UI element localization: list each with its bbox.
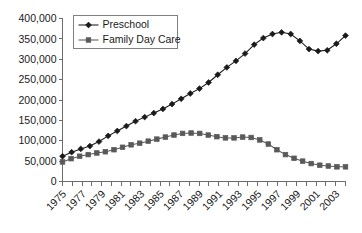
data-point-marker: [87, 143, 93, 149]
data-point-marker: [133, 118, 139, 124]
data-point-marker: [86, 152, 91, 157]
x-axis-tick-label: 1993: [219, 187, 244, 212]
data-point-marker: [326, 164, 331, 169]
y-axis-tick-label: 0: [51, 175, 57, 187]
data-point-marker: [169, 101, 175, 107]
data-point-marker: [275, 147, 280, 152]
data-point-marker: [69, 149, 75, 155]
line-chart: 050,000100,000150,000200,000250,000300,0…: [0, 0, 362, 233]
data-point-marker: [163, 135, 168, 140]
data-point-marker: [257, 138, 262, 143]
x-axis-tick-label: 1981: [102, 187, 127, 212]
y-axis-tick-label: 50,000: [24, 155, 56, 167]
data-point-marker: [155, 137, 160, 142]
x-axis-tick-label: 1997: [258, 187, 283, 212]
chart-canvas: 050,000100,000150,000200,000250,000300,0…: [0, 0, 362, 233]
series-line: [63, 32, 346, 156]
y-axis: 050,000100,000150,000200,000250,000300,0…: [19, 12, 63, 187]
x-axis: 1975197719791981198319851987198919911993…: [43, 182, 345, 213]
data-point-marker: [151, 110, 157, 116]
data-point-marker: [215, 134, 220, 139]
data-point-marker: [178, 96, 184, 102]
data-series-group: [60, 29, 349, 169]
data-point-marker: [95, 151, 100, 156]
data-point-marker: [137, 141, 142, 146]
y-axis-tick-label: 150,000: [19, 114, 57, 126]
data-point-marker: [309, 161, 314, 166]
data-point-marker: [335, 165, 340, 170]
data-point-marker: [197, 86, 203, 92]
data-point-marker: [270, 31, 276, 37]
data-point-marker: [232, 136, 237, 141]
data-point-marker: [114, 128, 120, 134]
legend-item-label: Preschool: [103, 18, 150, 30]
chart-legend: PreschoolFamily Day Care: [74, 16, 181, 49]
data-point-marker: [292, 156, 297, 161]
data-point-marker: [96, 139, 102, 145]
data-point-marker: [206, 133, 211, 138]
x-axis-tick-label: 1975: [43, 187, 68, 212]
x-axis-tick-label: 1991: [200, 187, 225, 212]
data-point-marker: [283, 152, 288, 157]
data-point-marker: [249, 135, 254, 140]
x-axis-tick-label: 1977: [63, 187, 88, 212]
data-point-marker: [146, 139, 151, 144]
data-point-marker: [60, 160, 65, 165]
y-axis-tick-label: 400,000: [19, 12, 57, 24]
data-point-marker: [60, 153, 66, 159]
x-axis-tick-label: 1985: [141, 187, 166, 212]
data-point-marker: [300, 159, 305, 164]
data-point-marker: [240, 135, 245, 140]
x-axis-tick-label: 1987: [161, 187, 186, 212]
data-point-marker: [197, 131, 202, 136]
y-axis-tick-label: 100,000: [19, 134, 57, 146]
data-point-marker: [120, 145, 125, 150]
data-point-marker: [189, 131, 194, 136]
y-axis-tick-label: 200,000: [19, 94, 57, 106]
x-axis-tick-label: 1989: [180, 187, 205, 212]
data-point-marker: [317, 163, 322, 168]
x-axis-tick-label: 1999: [278, 187, 303, 212]
data-point-marker: [142, 114, 148, 120]
data-point-marker: [103, 149, 108, 154]
data-point-marker: [69, 156, 74, 161]
data-point-marker: [105, 133, 111, 139]
y-axis-tick-label: 300,000: [19, 53, 57, 65]
data-point-marker: [315, 48, 321, 54]
data-point-marker: [223, 136, 228, 141]
data-point-marker: [172, 133, 177, 138]
data-point-marker: [129, 143, 134, 148]
data-point-marker: [180, 131, 185, 136]
x-axis-tick-label: 2001: [297, 187, 322, 212]
y-axis-tick-label: 250,000: [19, 73, 57, 85]
x-axis-tick-label: 1983: [121, 187, 146, 212]
series-family-day-care: [60, 131, 348, 169]
data-point-marker: [86, 38, 91, 43]
legend-item-label: Family Day Care: [103, 33, 181, 45]
y-axis-tick-label: 350,000: [19, 33, 57, 45]
x-axis-tick-label: 1979: [82, 187, 107, 212]
data-point-marker: [266, 142, 271, 147]
x-axis-tick-label: 2003: [317, 187, 342, 212]
data-point-marker: [112, 147, 117, 152]
data-point-marker: [343, 165, 348, 170]
data-point-marker: [77, 154, 82, 159]
data-point-marker: [78, 146, 84, 152]
data-point-marker: [279, 29, 285, 35]
x-axis-tick-label: 1995: [239, 187, 264, 212]
data-point-marker: [187, 91, 193, 97]
data-point-marker: [124, 123, 130, 129]
data-point-marker: [160, 106, 166, 112]
